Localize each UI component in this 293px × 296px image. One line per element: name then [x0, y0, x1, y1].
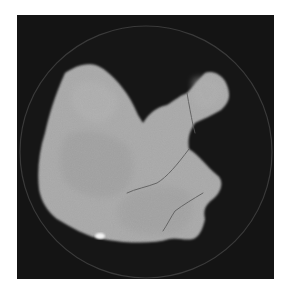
- calcification-spot: [95, 233, 105, 239]
- ct-scan-image: [17, 15, 274, 279]
- ct-slice-graphic: [17, 15, 274, 279]
